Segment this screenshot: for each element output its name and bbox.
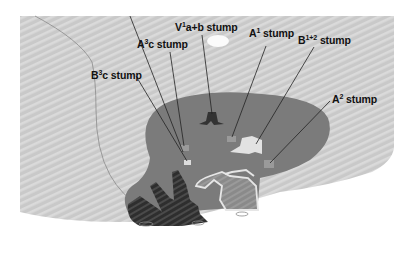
label-rest: stump [317, 34, 351, 46]
b3c-stump-shape [184, 160, 191, 165]
label-v1ab-stump: V1a+b stump [175, 21, 238, 33]
label-b3c-stump: B3c stump [91, 69, 142, 81]
white-oval [207, 35, 229, 47]
a2-stump-shape [264, 160, 274, 168]
label-rest: stump [260, 27, 294, 39]
label-a2-stump: A2 stump [332, 93, 377, 105]
label-b12-stump: B1+2 stump [298, 34, 351, 46]
label-rest: a+b stump [186, 21, 238, 33]
label-base: V [175, 21, 182, 33]
label-sup: 1+2 [305, 34, 317, 41]
a1-stump-shape [227, 136, 236, 142]
label-a1-stump: A1 stump [249, 27, 294, 39]
label-rest: c stump [102, 69, 142, 81]
base-ring-right [236, 212, 248, 216]
label-rest: stump [343, 93, 377, 105]
label-rest: c stump [148, 38, 188, 50]
label-a3c-stump: A3c stump [137, 38, 188, 50]
